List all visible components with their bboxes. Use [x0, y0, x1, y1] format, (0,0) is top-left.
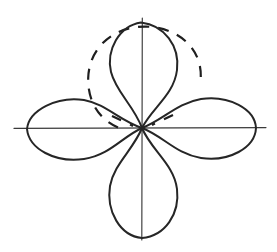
rose-diagram-svg — [0, 0, 277, 252]
figure-container: Four-lobe rose pattern with dashed refer… — [0, 0, 277, 252]
